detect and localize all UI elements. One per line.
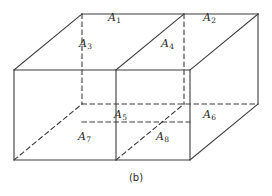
front-face-outline [14, 70, 190, 160]
top-left-receding-edge [14, 14, 82, 70]
face-label-a8-sub: 8 [164, 135, 169, 144]
face-label-a5-base: A [114, 108, 122, 121]
figure-caption: (b) [0, 172, 272, 183]
face-label-a4-sub: 4 [169, 42, 174, 51]
face-label-a3-base: A [79, 37, 87, 50]
face-label-a2-sub: 2 [211, 16, 216, 25]
figure-container: A1 A2 A3 A4 A5 A6 A7 A8 (b) [0, 0, 272, 196]
face-label-a4: A4 [161, 38, 174, 49]
face-label-a5: A5 [114, 109, 127, 120]
face-label-a7-base: A [78, 130, 86, 143]
face-label-a4-base: A [161, 37, 169, 50]
face-label-a1-sub: 1 [116, 16, 121, 25]
face-label-a6-sub: 6 [211, 113, 216, 122]
face-label-a8-base: A [156, 130, 164, 143]
face-label-a3: A3 [79, 38, 92, 49]
face-label-a1: A1 [108, 12, 121, 23]
face-label-a6: A6 [203, 109, 216, 120]
face-label-a2-base: A [203, 11, 211, 24]
face-label-a2: A2 [203, 12, 216, 23]
face-label-a8: A8 [156, 131, 169, 142]
face-label-a5-sub: 5 [122, 113, 127, 122]
face-label-a3-sub: 3 [87, 42, 92, 51]
top-right-receding-edge [190, 14, 258, 70]
bottom-right-receding-edge [190, 104, 258, 160]
face-label-a7-sub: 7 [86, 135, 91, 144]
box-wireframe-svg [0, 0, 272, 196]
face-label-a6-base: A [203, 108, 211, 121]
face-label-a7: A7 [78, 131, 91, 142]
face-label-a1-base: A [108, 11, 116, 24]
hidden-bottom-left-receding-edge [14, 104, 82, 160]
